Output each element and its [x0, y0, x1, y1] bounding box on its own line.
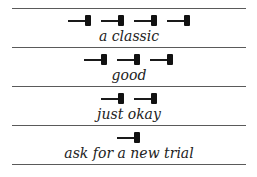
gavel-group: [68, 15, 191, 26]
gavel-icon: [84, 54, 108, 65]
rating-row-1: ask for a new trial: [12, 126, 246, 164]
gavel-group: [101, 93, 158, 104]
gavel-icon: [134, 93, 158, 104]
rating-row-4: a classic: [12, 9, 246, 47]
gavel-icon: [167, 15, 191, 26]
gavel-group: [84, 54, 174, 65]
rating-label: a classic: [99, 28, 159, 45]
rating-row-3: good: [12, 48, 246, 86]
rating-row-2: just okay: [12, 87, 246, 125]
gavel-icon: [117, 54, 141, 65]
gavel-icon: [101, 93, 125, 104]
gavel-icon: [150, 54, 174, 65]
rating-label: ask for a new trial: [64, 145, 193, 162]
rating-legend-table: a classic good just okay ask for a new t…: [12, 8, 246, 165]
divider: [12, 164, 246, 165]
rating-label: good: [112, 67, 147, 84]
gavel-icon: [68, 15, 92, 26]
gavel-group: [117, 132, 141, 143]
gavel-icon: [134, 15, 158, 26]
gavel-icon: [101, 15, 125, 26]
rating-label: just okay: [97, 106, 161, 123]
gavel-icon: [117, 132, 141, 143]
